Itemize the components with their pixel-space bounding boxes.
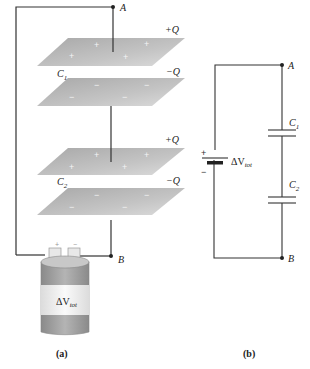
svg-text:+: + [122,162,127,172]
battery-label-b: ΔVtot [231,156,253,169]
c1-label: C1 [57,68,67,82]
svg-text:+: + [144,39,149,49]
c2-label: C2 [57,176,68,190]
svg-text:+: + [144,150,149,160]
svg-text:−: − [73,241,77,248]
svg-text:−: − [144,190,149,200]
node-b-dot-b [280,256,284,260]
caption-a: (a) [56,348,68,360]
svg-text:−: − [144,80,149,90]
battery: + − ΔVtot [41,241,89,335]
svg-text:+: + [55,241,59,248]
svg-text:−: − [94,190,99,200]
figure-b: A B C1 C2 + − ΔVtot (b) [201,60,300,360]
node-a-dot [111,5,115,9]
c1-top-plate [37,38,185,66]
c1-top-charge: +Q [165,24,180,35]
node-b-label-b: B [288,253,294,264]
caption-b: (b) [243,348,255,360]
c2-label-b: C2 [289,179,300,193]
c2-bottom-charge: −Q [166,175,181,186]
node-a-label: A [119,2,127,13]
svg-text:+: + [94,40,99,50]
svg-text:+: + [69,162,74,172]
c1-label-b: C1 [289,117,299,131]
figure-a: A B + + + + +Q − − − − −Q C1 + + + + +Q … [16,2,185,360]
node-b-dot [109,254,113,258]
svg-text:+: + [201,148,206,158]
c1-bottom-plate [37,78,185,106]
series-capacitor-diagram: A B + + + + +Q − − − − −Q C1 + + + + +Q … [0,0,310,369]
c2-bottom-plate [37,188,185,215]
svg-text:−: − [69,92,74,102]
wire-b-loop [215,65,282,150]
c1-bottom-charge: −Q [166,66,181,77]
c2-top-charge: +Q [165,134,180,145]
svg-text:−: − [69,202,74,212]
svg-text:−: − [122,92,127,102]
node-a-label-b: A [287,60,295,71]
svg-text:−: − [201,167,206,177]
svg-text:+: + [123,52,128,62]
svg-text:−: − [94,80,99,90]
node-a-dot-b [280,63,284,67]
svg-text:+: + [69,51,74,61]
svg-text:+: + [94,150,99,160]
svg-text:−: − [122,202,127,212]
node-b-label: B [118,254,124,265]
